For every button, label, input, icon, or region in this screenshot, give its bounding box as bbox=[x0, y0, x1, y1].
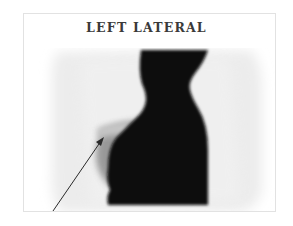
scintigram-image bbox=[0, 0, 293, 226]
